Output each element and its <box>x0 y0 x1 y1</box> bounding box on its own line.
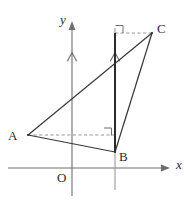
segment-ac <box>28 33 152 135</box>
vertex-dot-a <box>27 134 29 136</box>
right-angle-mark-lower <box>104 128 112 136</box>
point-label-b: B <box>119 150 128 163</box>
x-axis <box>8 165 170 172</box>
segment-bc <box>115 33 152 152</box>
point-label-c: C <box>157 22 166 35</box>
geometry-figure: A B C O x y <box>0 0 194 209</box>
triangle-abc <box>28 33 152 152</box>
y-axis <box>69 21 76 196</box>
y-axis-arrowhead <box>69 21 76 30</box>
origin-label: O <box>57 171 66 184</box>
vertex-dot-b <box>114 151 116 153</box>
x-axis-arrowhead <box>161 165 170 172</box>
y-axis-label: y <box>60 13 66 26</box>
vertex-dot-c <box>151 32 153 34</box>
x-axis-label: x <box>176 158 182 171</box>
right-angle-mark-upper <box>116 26 124 34</box>
point-label-a: A <box>8 129 17 142</box>
